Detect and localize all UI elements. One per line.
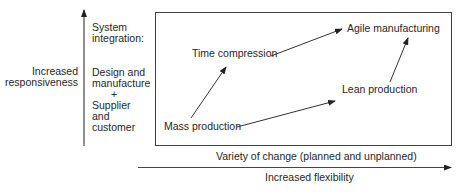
system-integration-body: Design and manufacture + Supplier and cu… [92,67,150,133]
heading-line: integration: [92,33,144,44]
arrow-mass-to-lean [237,101,335,127]
node-agile-manufacturing: Agile manufacturing [347,23,440,34]
arrow-time-to-agile [271,29,342,56]
body-line: customer [92,122,150,133]
node-lean-production: Lean production [342,84,417,95]
node-time-compression: Time compression [192,48,277,59]
y-axis-label: Increased responsiveness [5,66,78,88]
y-axis-label-line: responsiveness [5,77,78,88]
system-integration-heading: System integration: [92,22,144,44]
x-axis-inner-label: Variety of change (planned and unplanned… [216,151,417,162]
body-line: manufacture [92,78,150,89]
node-mass-production: Mass production [164,121,241,132]
arrow-lean-to-agile [390,38,408,82]
x-axis-label: Increased flexibility [265,172,354,183]
arrow-mass-to-time [191,67,226,118]
